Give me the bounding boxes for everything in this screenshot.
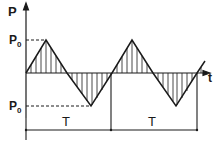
y-axis-arrow-icon bbox=[24, 3, 29, 10]
period-label-2: T bbox=[148, 114, 156, 129]
period-label-1: T bbox=[62, 114, 70, 129]
x-axis-label: t bbox=[208, 71, 212, 85]
y-axis-label: P bbox=[8, 4, 17, 19]
amplitude-label-lower: P0 bbox=[9, 99, 22, 115]
amplitude-label-upper: P0 bbox=[9, 33, 22, 49]
triangular-wave-diagram: P P0 P0 t T T bbox=[0, 0, 224, 149]
axes bbox=[24, 3, 211, 118]
